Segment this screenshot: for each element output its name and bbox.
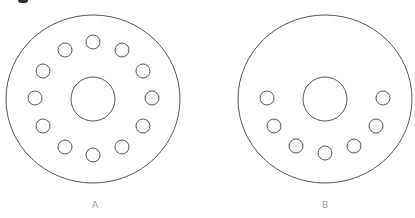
bolt-hole xyxy=(145,91,159,105)
bolt-hole xyxy=(267,119,281,133)
disc-b-label: B xyxy=(322,200,328,210)
bolt-hole xyxy=(28,91,42,105)
center-hole xyxy=(303,77,347,121)
bolt-hole xyxy=(289,139,303,153)
bolt-hole xyxy=(136,119,150,133)
outer-rim xyxy=(6,15,180,183)
disc-a xyxy=(6,15,180,183)
disc-a-label: A xyxy=(92,200,98,210)
bolt-hole xyxy=(369,119,383,133)
bolt-hole xyxy=(86,35,100,49)
bolt-hole xyxy=(115,140,129,154)
bolt-hole xyxy=(260,91,274,105)
outer-rim xyxy=(238,15,412,183)
bolt-hole xyxy=(36,119,50,133)
bolt-hole xyxy=(86,148,100,162)
bolt-hole xyxy=(58,43,72,57)
center-hole xyxy=(71,77,115,121)
bolt-hole xyxy=(376,91,390,105)
bolt-hole xyxy=(347,139,361,153)
bolt-hole xyxy=(36,64,50,78)
bolt-hole xyxy=(58,140,72,154)
bolt-hole xyxy=(115,43,129,57)
disc-diagram xyxy=(0,0,415,218)
bolt-hole xyxy=(136,64,150,78)
bolt-hole xyxy=(318,146,332,160)
disc-b xyxy=(238,15,412,183)
